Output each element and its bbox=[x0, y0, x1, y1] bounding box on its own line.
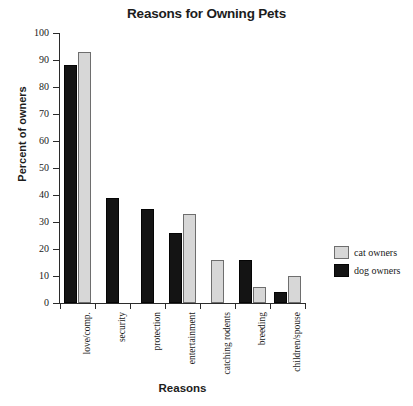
x-category-label: security bbox=[117, 312, 127, 342]
legend-label: cat owners bbox=[354, 247, 397, 258]
y-tick-label: 10 bbox=[19, 271, 49, 281]
y-tick-mark bbox=[53, 87, 59, 88]
x-category-label: entertainment bbox=[187, 312, 197, 364]
y-tick-mark bbox=[53, 168, 59, 169]
bar-dog-owners bbox=[169, 233, 182, 303]
x-category-label: catching rodents bbox=[222, 312, 232, 375]
y-tick-mark bbox=[53, 141, 59, 142]
y-tick-mark bbox=[53, 33, 59, 34]
x-axis-title: Reasons bbox=[60, 382, 305, 394]
y-axis-title: Percent of owners bbox=[16, 64, 28, 204]
y-tick-mark bbox=[53, 114, 59, 115]
x-axis-line bbox=[59, 303, 306, 304]
x-category-label: breeding bbox=[257, 312, 267, 345]
x-tick-mark bbox=[95, 304, 96, 309]
x-tick-mark bbox=[130, 304, 131, 309]
legend-swatch-dog-owners bbox=[334, 264, 349, 277]
y-tick-mark bbox=[53, 222, 59, 223]
legend-label: dog owners bbox=[354, 265, 400, 276]
y-tick-label: 30 bbox=[19, 217, 49, 227]
bar-dog-owners bbox=[141, 209, 154, 304]
x-category-label: children/spouse bbox=[292, 312, 302, 372]
bar-dog-owners bbox=[274, 292, 287, 303]
legend-item: dog owners bbox=[334, 261, 412, 279]
y-tick-mark bbox=[53, 249, 59, 250]
x-tick-mark bbox=[235, 304, 236, 309]
chart-title: Reasons for Owning Pets bbox=[0, 6, 413, 21]
y-tick-label: 0 bbox=[19, 298, 49, 308]
bar-cat-owners bbox=[78, 52, 91, 303]
x-category-label: love/comp. bbox=[82, 312, 92, 354]
y-tick-mark bbox=[53, 60, 59, 61]
x-tick-mark bbox=[60, 304, 61, 309]
x-tick-mark bbox=[305, 304, 306, 309]
y-tick-mark bbox=[53, 276, 59, 277]
x-tick-mark bbox=[165, 304, 166, 309]
y-tick-mark bbox=[53, 303, 59, 304]
x-category-label: protection bbox=[152, 312, 162, 351]
bar-dog-owners bbox=[64, 65, 77, 303]
plot-area bbox=[60, 33, 305, 303]
legend-item: cat owners bbox=[334, 243, 412, 261]
bar-dog-owners bbox=[106, 198, 119, 303]
legend-swatch-cat-owners bbox=[334, 246, 349, 259]
bar-cat-owners bbox=[183, 214, 196, 303]
bar-dog-owners bbox=[239, 260, 252, 303]
chart-legend: cat ownersdog owners bbox=[334, 243, 412, 279]
y-tick-label: 100 bbox=[19, 28, 49, 38]
y-tick-mark bbox=[53, 195, 59, 196]
bar-cat-owners bbox=[211, 260, 224, 303]
pet-ownership-bar-chart: Reasons for Owning Pets 0102030405060708… bbox=[0, 0, 413, 406]
x-tick-mark bbox=[270, 304, 271, 309]
bar-cat-owners bbox=[288, 276, 301, 303]
y-tick-label: 20 bbox=[19, 244, 49, 254]
x-tick-mark bbox=[200, 304, 201, 309]
bar-cat-owners bbox=[253, 287, 266, 303]
